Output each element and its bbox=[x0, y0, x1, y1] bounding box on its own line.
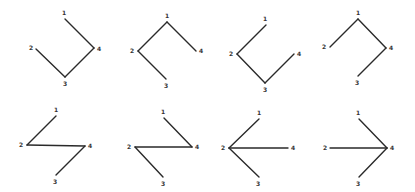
edge-1-4 bbox=[164, 118, 192, 147]
node-label-2: 2 bbox=[323, 144, 327, 151]
node-label-1: 1 bbox=[54, 106, 58, 113]
node-label-2: 2 bbox=[130, 47, 134, 54]
node-label-1: 1 bbox=[161, 108, 165, 115]
edge-1-2 bbox=[229, 119, 259, 148]
node-label-2: 2 bbox=[229, 50, 233, 57]
node-label-1: 1 bbox=[62, 9, 66, 16]
node-label-1: 1 bbox=[257, 109, 261, 116]
node-label-1: 1 bbox=[356, 9, 360, 16]
edge-1-4 bbox=[65, 19, 94, 48]
edge-3-2 bbox=[36, 49, 65, 77]
panel-1: 1234 bbox=[29, 9, 101, 87]
node-label-2: 2 bbox=[19, 141, 23, 148]
node-label-2: 2 bbox=[127, 143, 131, 150]
edge-2-3 bbox=[135, 147, 163, 177]
node-label-3: 3 bbox=[356, 180, 360, 187]
panel-5: 1234 bbox=[19, 106, 92, 185]
node-label-4: 4 bbox=[390, 144, 394, 151]
node-label-4: 4 bbox=[291, 144, 295, 151]
edge-1-4 bbox=[359, 119, 387, 148]
node-label-3: 3 bbox=[355, 79, 359, 86]
node-label-4: 4 bbox=[97, 45, 101, 52]
node-label-2: 2 bbox=[29, 44, 33, 51]
edge-3-4 bbox=[265, 54, 294, 83]
node-label-1: 1 bbox=[356, 109, 360, 116]
edge-1-4 bbox=[167, 22, 196, 51]
node-label-4: 4 bbox=[297, 50, 301, 57]
panel-2: 1234 bbox=[130, 12, 203, 89]
node-label-1: 1 bbox=[165, 12, 169, 19]
edge-4-3 bbox=[359, 148, 387, 177]
node-label-4: 4 bbox=[88, 142, 92, 149]
node-label-3: 3 bbox=[256, 180, 260, 187]
edge-2-3 bbox=[237, 54, 265, 83]
node-label-4: 4 bbox=[195, 143, 199, 150]
edge-2-3 bbox=[138, 51, 166, 79]
panel-6: 1234 bbox=[127, 108, 199, 187]
panel-8: 1234 bbox=[323, 109, 394, 187]
panel-4: 1234 bbox=[322, 9, 393, 86]
node-label-3: 3 bbox=[161, 180, 165, 187]
edge-2-3 bbox=[229, 148, 259, 177]
node-label-2: 2 bbox=[322, 43, 326, 50]
edge-2-4 bbox=[27, 145, 85, 146]
node-label-2: 2 bbox=[221, 144, 225, 151]
node-label-4: 4 bbox=[199, 47, 203, 54]
node-label-4: 4 bbox=[389, 44, 393, 51]
edge-4-3 bbox=[358, 48, 386, 76]
edge-1-2 bbox=[330, 19, 358, 47]
edge-1-2 bbox=[138, 22, 167, 51]
panel-3: 1234 bbox=[229, 15, 301, 93]
node-label-3: 3 bbox=[63, 80, 67, 87]
edge-1-4 bbox=[358, 19, 386, 48]
edge-4-3 bbox=[65, 48, 94, 77]
node-label-3: 3 bbox=[263, 86, 267, 93]
node-label-3: 3 bbox=[164, 82, 168, 89]
node-label-3: 3 bbox=[53, 178, 57, 185]
panel-7: 1234 bbox=[221, 109, 295, 187]
node-label-1: 1 bbox=[263, 15, 267, 22]
edge-4-3 bbox=[56, 146, 85, 175]
edge-1-2 bbox=[27, 116, 56, 145]
graph-diagram-grid: 12341234123412341234123412341234 bbox=[0, 0, 415, 192]
edge-1-2 bbox=[237, 25, 266, 54]
